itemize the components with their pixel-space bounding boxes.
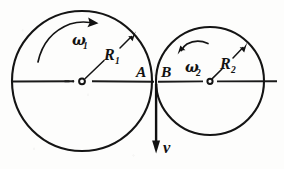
centre-mark-dashdot [65,80,75,82]
omega1-rotation-arrow [38,18,99,62]
velocity-arrowhead [152,141,160,154]
velocity-vector-group [152,84,160,154]
omega1-subscript: 1 [83,41,88,51]
omega2-rotation-arrow [178,41,208,54]
radius2-subscript: 2 [230,65,236,75]
dashdot-dot [72,80,74,82]
radius1-leader-to-rim [120,37,132,49]
radius1-subscript: 1 [115,56,120,66]
point-a-label: A [135,63,146,80]
physics-figure-canvas: ω 1 R 1 ω 2 R 2 A B [0,0,284,169]
radius1-label: R [103,46,115,63]
left-disc-center-hub [79,78,85,84]
radius1-leader-from-center [86,61,105,79]
point-b-label: B [160,63,171,80]
two-discs-diagram: ω 1 R 1 ω 2 R 2 A B [0,0,284,169]
omega2-subscript: 2 [195,68,201,78]
omega2-arc [182,41,209,50]
axis-line-left-inner [92,81,154,82]
radius2-label: R [219,55,231,72]
horizontal-axis-group [13,81,277,82]
velocity-label: v [163,138,171,157]
right-disc-center-hub [207,79,212,84]
